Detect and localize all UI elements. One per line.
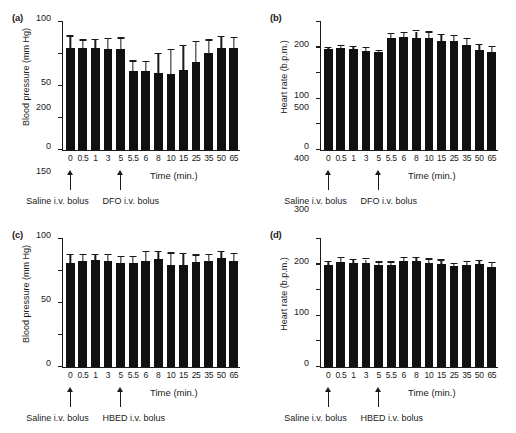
error-bar-cap — [451, 263, 458, 264]
bar — [425, 38, 434, 150]
error-bar-shaft — [378, 263, 379, 265]
bar — [487, 52, 496, 150]
x-tick-label: 10 — [423, 370, 436, 380]
y-tick-label-d-0: 0 — [304, 358, 309, 368]
x-axis-line-a — [62, 150, 240, 151]
error-bar-shaft — [158, 252, 159, 260]
y-tick-d-3: 300 — [316, 289, 321, 290]
figure-container: (a) Blood pressure (mm Hg) 050100150200 … — [0, 0, 516, 433]
x-tick-label: 0 — [64, 370, 77, 380]
bar — [324, 265, 333, 367]
bar-slot — [448, 22, 461, 150]
bar-slot — [335, 22, 348, 150]
annotation-arrow-icon — [374, 387, 383, 407]
y-tick-a-0: 0 — [58, 149, 63, 150]
bar-slot — [114, 22, 127, 150]
bar — [462, 45, 471, 150]
annotation-label: Saline i.v. bolus — [26, 413, 88, 423]
error-bar-shaft — [391, 263, 392, 265]
bar — [229, 261, 238, 367]
error-bar-cap — [105, 38, 112, 39]
bar — [412, 38, 421, 150]
bar-slot — [347, 239, 360, 367]
bar-slot — [165, 22, 178, 150]
error-bar-shaft — [133, 62, 134, 71]
error-bar-cap — [230, 253, 237, 254]
error-bar-cap — [375, 50, 382, 51]
bar — [129, 263, 138, 367]
bar-slot — [215, 239, 228, 367]
error-bar-shaft — [208, 41, 209, 54]
x-tick-label: 0.5 — [335, 153, 348, 163]
x-tick-label: 65 — [486, 370, 499, 380]
annotation-arrow-icon — [116, 170, 125, 190]
bar — [179, 265, 188, 367]
x-tick-label: 3 — [360, 153, 373, 163]
y-tick-d-4: 400 — [316, 263, 321, 264]
x-tick-label: 1 — [347, 153, 360, 163]
error-bar-cap — [388, 33, 395, 34]
error-bar-cap — [325, 47, 332, 48]
error-bar-shaft — [195, 256, 196, 262]
bar — [475, 264, 484, 367]
x-tick-label: 25 — [190, 153, 203, 163]
x-tick-label: 6 — [397, 153, 410, 163]
y-tick-c-1: 50 — [58, 334, 63, 335]
error-bar-cap — [438, 34, 445, 35]
bar-group-d — [322, 239, 498, 367]
panel-c: (c) Blood pressure (mm Hg) 050100150200 … — [0, 217, 258, 433]
error-bar-shaft — [70, 37, 71, 49]
bar-slot — [64, 22, 77, 150]
error-bar-shaft — [453, 264, 454, 267]
error-bar-cap — [167, 252, 174, 253]
error-bar-cap — [205, 254, 212, 255]
bar-slot — [202, 22, 215, 150]
error-bar-cap — [488, 262, 495, 263]
bar — [399, 261, 408, 367]
y-tick-d-5: 500 — [316, 238, 321, 239]
x-tick-label: 8 — [410, 370, 423, 380]
bar — [204, 261, 213, 367]
x-tick-label: 35 — [202, 370, 215, 380]
y-tick-label-c-1: 50 — [41, 294, 51, 304]
y-tick-label-d-3: 300 — [294, 204, 309, 214]
x-axis-title-b: Time (min.) — [408, 170, 456, 181]
bar-slot — [152, 22, 165, 150]
error-bar-shaft — [391, 34, 392, 38]
error-bar-cap — [476, 44, 483, 45]
y-tick-label-a-0: 0 — [46, 141, 51, 151]
x-tick-label: 35 — [460, 370, 473, 380]
error-bar-shaft — [428, 33, 429, 38]
bar-slot — [177, 239, 190, 367]
y-axis-title-a: Blood pressure (mm Hg) — [21, 17, 31, 137]
bar — [412, 261, 421, 367]
bar-slot — [77, 239, 90, 367]
error-bar-cap — [130, 60, 137, 61]
error-bar-shaft — [365, 260, 366, 263]
bar-slot — [347, 22, 360, 150]
y-tick-label-a-1: 50 — [41, 77, 51, 87]
bar-slot — [448, 239, 461, 367]
annotation-arrow-icon — [374, 170, 383, 190]
bar-slot — [435, 239, 448, 367]
y-tick-b-0: 0 — [316, 149, 321, 150]
x-tick-label: 3 — [102, 370, 115, 380]
bar-slot — [322, 22, 335, 150]
bar — [66, 263, 75, 367]
y-axis-title-b: Heart rate (b.p.m.) — [279, 17, 289, 137]
x-tick-label: 3 — [360, 370, 373, 380]
y-tick-d-2: 200 — [316, 315, 321, 316]
x-axis-line-c — [62, 367, 240, 368]
bar — [425, 263, 434, 367]
bar — [66, 48, 75, 150]
x-tick-label: 10 — [165, 153, 178, 163]
error-bar-shaft — [221, 252, 222, 258]
x-tick-label: 0 — [64, 153, 77, 163]
bar — [362, 263, 371, 367]
bar — [229, 48, 238, 150]
bar-slot — [177, 22, 190, 150]
bar — [387, 38, 396, 150]
error-bar-cap — [142, 251, 149, 252]
x-tick-label: 8 — [152, 153, 165, 163]
x-tick-label: 35 — [202, 153, 215, 163]
